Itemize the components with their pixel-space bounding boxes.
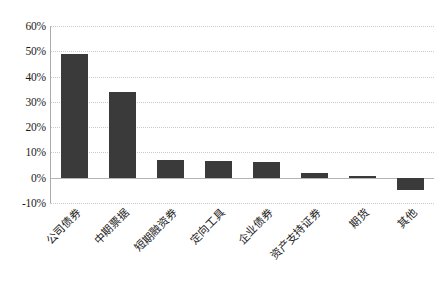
x-axis-tick-label: 其他 xyxy=(393,203,421,231)
bar xyxy=(109,92,136,178)
y-axis-tick-label: 40% xyxy=(2,71,46,83)
plot-area xyxy=(50,26,434,203)
x-axis-tick-label: 中期票据 xyxy=(89,203,133,247)
y-axis-tick-label: 20% xyxy=(2,121,46,133)
y-axis-tick-label: 10% xyxy=(2,146,46,158)
bar xyxy=(61,54,88,178)
x-axis-tick: 短期融资券 xyxy=(130,203,182,255)
x-axis-tick: 其他 xyxy=(393,203,421,231)
bar xyxy=(205,161,232,177)
y-axis-tick-label: 30% xyxy=(2,96,46,108)
x-axis-tick-label: 期货 xyxy=(345,203,373,231)
x-axis-tick-label: 企业债券 xyxy=(233,203,277,247)
x-axis-tick-labels: 公司债券中期票据短期融资券定向工具企业债券资产支持证券期货其他 xyxy=(50,203,434,281)
bar xyxy=(157,160,184,178)
y-axis-tick-labels: 60%50%40%30%20%10%0%-10% xyxy=(0,26,46,203)
x-axis-tick: 期货 xyxy=(345,203,373,231)
gridline xyxy=(50,77,434,78)
gridline xyxy=(50,26,434,27)
x-axis-tick: 中期票据 xyxy=(89,203,133,247)
gridline xyxy=(50,51,434,52)
y-axis-tick-label: -10% xyxy=(2,197,46,209)
bar xyxy=(301,173,328,178)
x-axis-tick-label: 公司债券 xyxy=(41,203,85,247)
y-axis-tick-label: 60% xyxy=(2,20,46,32)
bar-chart: 60%50%40%30%20%10%0%-10% 公司债券中期票据短期融资券定向… xyxy=(0,0,444,281)
y-axis-tick-label: 0% xyxy=(2,172,46,184)
zero-baseline xyxy=(50,178,434,179)
x-axis-tick: 企业债券 xyxy=(233,203,277,247)
bar xyxy=(253,162,280,178)
x-axis-tick: 公司债券 xyxy=(41,203,85,247)
bar xyxy=(397,178,424,190)
x-axis-tick-label: 短期融资券 xyxy=(130,203,182,255)
y-axis-tick-label: 50% xyxy=(2,45,46,57)
x-axis-tick: 定向工具 xyxy=(185,203,229,247)
y-axis-line xyxy=(50,26,51,203)
bar xyxy=(349,176,376,177)
x-axis-tick-label: 定向工具 xyxy=(185,203,229,247)
